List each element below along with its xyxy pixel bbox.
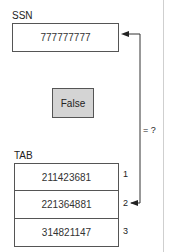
compare-arrow-icon bbox=[0, 0, 169, 252]
